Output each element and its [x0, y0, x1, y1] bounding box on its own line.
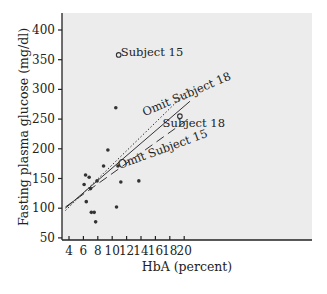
annotation-label: Subject 18: [163, 116, 225, 130]
data-point: [119, 180, 123, 184]
data-point: [84, 200, 88, 204]
data-point: [92, 211, 96, 215]
x-tick-label: 16: [148, 244, 163, 258]
y-tick-label: 400: [32, 23, 55, 37]
y-tick-label: 300: [32, 82, 55, 96]
data-point: [82, 183, 86, 187]
y-tick-label: 100: [32, 201, 55, 215]
data-point: [137, 179, 141, 183]
data-point: [106, 148, 110, 152]
x-tick-label: 18: [162, 244, 177, 258]
x-axis-label: HbA (percent): [142, 259, 233, 274]
x-tick-label: 4: [65, 244, 73, 258]
data-point: [95, 179, 99, 183]
x-tick-label: 12: [119, 244, 134, 258]
x-tick-label: 20: [177, 244, 192, 258]
data-point: [87, 176, 91, 180]
y-tick-label: 150: [32, 172, 55, 186]
y-tick-label: 350: [32, 53, 55, 67]
y-tick-label: 250: [32, 112, 55, 126]
x-tick-label: 10: [105, 244, 120, 258]
x-tick-label: 6: [80, 244, 88, 258]
y-axis-label: Fasting plasma glucose (mg/dl): [16, 28, 31, 226]
annotation-label: Subject 15: [121, 45, 183, 59]
data-point: [114, 106, 118, 110]
x-tick-label: 14: [133, 244, 149, 258]
scatter-chart: Subject 15Omit Subject 18Subject 18Omit …: [0, 0, 327, 294]
y-ticks: 50100150200250300350400: [32, 23, 62, 245]
data-point: [94, 220, 98, 224]
data-point: [89, 187, 93, 191]
data-point: [115, 205, 119, 209]
data-point: [102, 164, 106, 168]
y-tick-label: 200: [32, 142, 55, 156]
y-tick-label: 50: [40, 231, 55, 245]
x-tick-label: 8: [94, 244, 102, 258]
data-point: [84, 173, 88, 177]
